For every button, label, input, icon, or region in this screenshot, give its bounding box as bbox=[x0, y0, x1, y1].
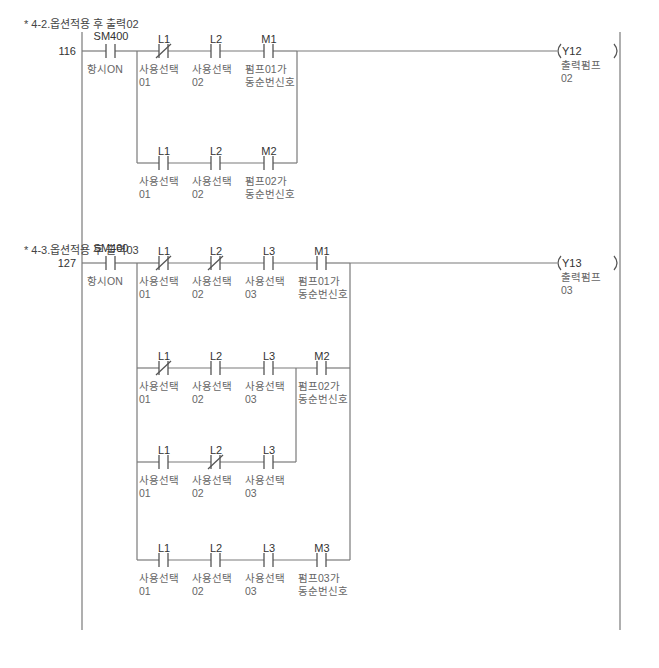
contact-comment: 사용선택 01 bbox=[139, 474, 193, 500]
coil-y13-left bbox=[558, 256, 561, 270]
contact-label: L2 bbox=[196, 350, 236, 362]
contact-comment: 사용선택 01 bbox=[139, 572, 193, 598]
contact-comment: 사용선택 01 bbox=[139, 275, 193, 301]
coil-y12-left bbox=[558, 44, 561, 58]
contact-label: M2 bbox=[302, 350, 342, 362]
contact-comment: 사용선택 01 bbox=[139, 175, 193, 201]
coil-comment: 출력펌프 02 bbox=[561, 59, 615, 85]
contact-label: L1 bbox=[144, 542, 184, 554]
contact-m2-116b bbox=[264, 156, 273, 170]
contact-comment: 사용선택 03 bbox=[245, 572, 299, 598]
contact-label: L3 bbox=[249, 350, 289, 362]
contact-comment: 펌프02가 동순번신호 bbox=[298, 380, 352, 406]
coil-y13-right bbox=[614, 256, 617, 270]
rung-title-4-2: * 4-2.옵션적용 후 출력02 bbox=[24, 15, 139, 31]
contact-comment: 사용선택 02 bbox=[192, 175, 246, 201]
contact-comment: 항시ON bbox=[87, 63, 141, 76]
contact-label: L2 bbox=[196, 444, 236, 456]
coil-label: Y12 bbox=[562, 45, 582, 58]
contact-comment: 사용선택 02 bbox=[192, 275, 246, 301]
contact-label: L1 bbox=[144, 245, 184, 257]
contact-label: L3 bbox=[249, 245, 289, 257]
contact-label: M1 bbox=[249, 33, 289, 45]
contact-label: L1 bbox=[144, 350, 184, 362]
contact-label: L1 bbox=[144, 444, 184, 456]
contact-label: L3 bbox=[249, 444, 289, 456]
contact-label: L2 bbox=[196, 145, 236, 157]
coil-comment: 출력펌프 03 bbox=[561, 271, 615, 297]
contact-comment: 펌프01가 동순번신호 bbox=[245, 63, 299, 89]
contact-comment: 항시ON bbox=[87, 275, 141, 288]
contact-comment: 사용선택 01 bbox=[139, 63, 193, 89]
contact-label: L2 bbox=[196, 245, 236, 257]
contact-comment: 사용선택 02 bbox=[192, 572, 246, 598]
contact-sm400-127 bbox=[106, 256, 115, 270]
contact-l1-116b bbox=[159, 156, 168, 170]
contact-label: SM400 bbox=[91, 30, 131, 42]
contact-label: M3 bbox=[302, 542, 342, 554]
contact-label: L2 bbox=[196, 542, 236, 554]
contact-comment: 사용선택 03 bbox=[245, 380, 299, 406]
coil-label: Y13 bbox=[562, 257, 582, 270]
step-number: 116 bbox=[46, 45, 76, 57]
contact-label: L1 bbox=[144, 33, 184, 45]
contact-comment: 펌프02가 동순번신호 bbox=[245, 175, 299, 201]
coil-y12-right bbox=[614, 44, 617, 58]
contact-label: L1 bbox=[144, 145, 184, 157]
contact-l2-116b bbox=[211, 156, 220, 170]
contact-comment: 사용선택 02 bbox=[192, 474, 246, 500]
contact-comment: 펌프03가 동순번신호 bbox=[298, 572, 352, 598]
step-number: 127 bbox=[46, 257, 76, 269]
ladder-wiring bbox=[0, 0, 659, 668]
contact-label: M1 bbox=[302, 245, 342, 257]
contact-comment: 사용선택 03 bbox=[245, 275, 299, 301]
contact-comment: 사용선택 02 bbox=[192, 380, 246, 406]
contact-label: M2 bbox=[249, 145, 289, 157]
contact-comment: 사용선택 03 bbox=[245, 474, 299, 500]
contact-m1-116 bbox=[264, 44, 273, 58]
contact-comment: 펌프01가 동순번신호 bbox=[298, 275, 352, 301]
contact-label: L2 bbox=[196, 33, 236, 45]
ladder-diagram: * 4-2.옵션적용 후 출력02 116 SM400 항시ON L1 사용선택… bbox=[0, 0, 659, 668]
contact-comment: 사용선택 01 bbox=[139, 380, 193, 406]
contact-sm400-116 bbox=[106, 44, 115, 58]
contact-label: L3 bbox=[249, 542, 289, 554]
contact-l2-116 bbox=[211, 44, 220, 58]
contact-label: SM400 bbox=[91, 242, 131, 254]
contact-comment: 사용선택 02 bbox=[192, 63, 246, 89]
